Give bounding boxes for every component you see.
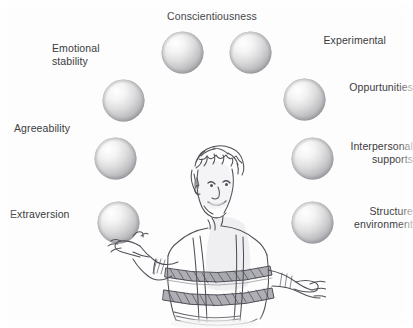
label-agreeability: Agreeability (14, 122, 90, 135)
label-structure-environment: Structure environment (336, 205, 413, 230)
label-emotional-stability: Emotional stability (52, 42, 136, 67)
label-experimental: Experimental (276, 34, 386, 47)
ball-emotional-stability (102, 79, 145, 122)
ball-opportunities (283, 78, 326, 121)
label-opportunities: Oppurtunities (328, 81, 413, 94)
label-interpersonal-supports: Interpersonal supports (336, 140, 413, 165)
person-juggling-sketch (96, 140, 326, 328)
ball-conscientiousness (161, 31, 204, 74)
illustration-canvas: Conscientiousness Emotional stability Ex… (0, 0, 413, 328)
label-extraversion: Extraversion (10, 208, 90, 221)
label-conscientiousness: Conscientiousness (152, 10, 272, 23)
ball-experimental (229, 31, 272, 74)
